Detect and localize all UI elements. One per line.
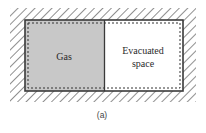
- diagram-figure: Gas Evacuated space (a): [0, 0, 206, 133]
- evacuated-label-line2: space: [132, 58, 155, 69]
- gas-label: Gas: [56, 51, 72, 62]
- figure-caption: (a): [97, 110, 108, 120]
- evacuated-label-line1: Evacuated: [122, 45, 164, 56]
